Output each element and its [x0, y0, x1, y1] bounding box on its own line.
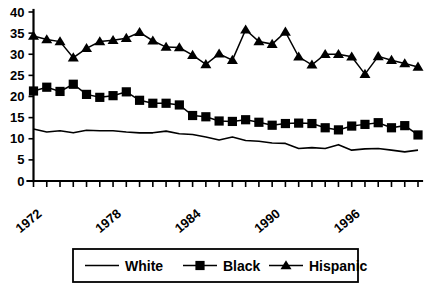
marker-black-1977	[95, 93, 104, 102]
y-tick-label-25: 25	[10, 68, 24, 83]
marker-black-1995	[334, 125, 343, 134]
series-line-black	[34, 84, 419, 135]
marker-black-1981	[148, 99, 157, 108]
x-tick-label-1972: 1972	[13, 206, 45, 236]
chart-legend: WhiteBlackHispanic	[73, 249, 368, 282]
marker-hispanic-1988	[240, 24, 251, 33]
marker-black-1994	[321, 123, 330, 132]
marker-black-1992	[294, 119, 303, 128]
marker-black-1988	[241, 115, 250, 124]
series-line-white	[34, 129, 419, 152]
x-tick-label-1990: 1990	[251, 206, 283, 236]
marker-black-1987	[228, 117, 237, 126]
marker-hispanic-1981	[147, 35, 158, 44]
marker-hispanic-1998	[373, 51, 384, 60]
marker-hispanic-1991	[280, 27, 291, 36]
y-tick-label-15: 15	[10, 110, 24, 125]
marker-black-1974	[55, 87, 64, 96]
marker-black-1998	[374, 118, 383, 127]
legend-square-icon	[195, 261, 204, 270]
marker-hispanic-1984	[187, 50, 198, 59]
marker-black-1997	[360, 120, 369, 129]
legend-label-black: Black	[223, 258, 261, 274]
legend-label-hispanic: Hispanic	[309, 258, 368, 274]
marker-hispanic-1982	[161, 42, 172, 51]
marker-hispanic-1979	[121, 33, 132, 42]
marker-black-1993	[307, 119, 316, 128]
marker-hispanic-1980	[134, 27, 145, 36]
y-tick-label-40: 40	[10, 5, 24, 20]
marker-hispanic-1994	[320, 49, 331, 58]
marker-hispanic-1972	[28, 31, 39, 40]
marker-black-1986	[215, 116, 224, 125]
marker-hispanic-1992	[293, 51, 304, 60]
marker-hispanic-1986	[214, 49, 225, 58]
marker-black-1984	[188, 111, 197, 120]
y-tick-label-20: 20	[10, 89, 24, 104]
marker-black-1985	[201, 112, 210, 121]
marker-black-2000	[400, 121, 409, 130]
series-white	[34, 129, 419, 152]
y-tick-label-35: 35	[10, 26, 24, 41]
series-hispanic	[28, 24, 424, 77]
marker-black-1975	[69, 80, 78, 89]
marker-black-1991	[281, 119, 290, 128]
marker-hispanic-1976	[81, 43, 92, 52]
marker-hispanic-1987	[227, 55, 238, 64]
x-tick-label-1984: 1984	[172, 205, 204, 236]
y-axis-tick-labels: 0510152025303540	[10, 5, 24, 189]
marker-black-1978	[108, 91, 117, 100]
data-series-layer	[28, 24, 424, 151]
marker-black-1979	[122, 87, 131, 96]
y-tick-label-10: 10	[10, 131, 24, 146]
y-tick-label-30: 30	[10, 47, 24, 62]
marker-black-1999	[387, 123, 396, 132]
legend-label-white: White	[125, 258, 163, 274]
marker-black-1990	[268, 121, 277, 130]
marker-black-1996	[347, 121, 356, 130]
marker-hispanic-1995	[333, 49, 344, 58]
y-tick-label-0: 0	[17, 174, 24, 189]
marker-black-1973	[42, 83, 51, 92]
marker-black-2001	[413, 130, 422, 139]
marker-black-1982	[161, 99, 170, 108]
marker-black-1980	[135, 96, 144, 105]
marker-black-1989	[254, 118, 263, 127]
marker-black-1983	[175, 100, 184, 109]
x-tick-label-1996: 1996	[331, 206, 363, 236]
y-tick-label-5: 5	[17, 152, 24, 167]
marker-black-1976	[82, 90, 91, 99]
x-axis-tick-labels: 19721978198419901996	[13, 205, 363, 236]
dropout-rate-line-chart: 0510152025303540 19721978198419901996 Wh…	[0, 0, 426, 293]
chart-container: 0510152025303540 19721978198419901996 Wh…	[0, 0, 426, 293]
x-tick-label-1978: 1978	[92, 206, 124, 236]
marker-black-1972	[29, 86, 38, 95]
